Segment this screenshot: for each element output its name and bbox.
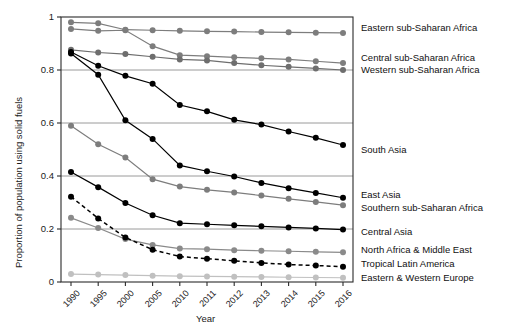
series-8	[68, 194, 346, 270]
data-point	[68, 26, 74, 32]
data-point	[204, 28, 210, 34]
data-point	[313, 275, 319, 281]
series-label-9: Eastern & Western Europe	[361, 272, 474, 283]
y-axis-tick-0.6: 0.6	[24, 117, 54, 128]
data-point	[286, 248, 292, 254]
data-point	[286, 64, 292, 70]
data-point	[177, 273, 183, 279]
data-point	[122, 51, 128, 57]
data-point	[95, 63, 101, 69]
data-point	[68, 169, 74, 175]
data-point	[258, 274, 264, 280]
data-point	[68, 215, 74, 221]
series-label-6: Central Asia	[361, 226, 412, 237]
y-axis-tick-1: 1	[24, 11, 54, 22]
data-point	[122, 234, 128, 240]
data-point	[313, 263, 319, 269]
data-point	[313, 135, 319, 141]
data-point	[122, 27, 128, 33]
data-point	[95, 20, 101, 26]
series-0	[68, 19, 346, 36]
data-point	[231, 222, 237, 228]
data-point	[122, 200, 128, 206]
data-point	[258, 260, 264, 266]
series-label-4: East Asia	[361, 189, 401, 200]
data-point	[313, 58, 319, 64]
data-point	[204, 256, 210, 262]
data-point	[313, 249, 319, 255]
data-point	[204, 168, 210, 174]
data-point	[150, 176, 156, 182]
data-point	[68, 51, 74, 57]
data-point	[258, 180, 264, 186]
data-point	[204, 273, 210, 279]
data-point	[177, 254, 183, 260]
data-point	[177, 28, 183, 34]
data-point	[204, 108, 210, 114]
data-point	[286, 224, 292, 230]
data-point	[231, 258, 237, 264]
data-point	[286, 128, 292, 134]
data-point	[258, 62, 264, 68]
data-point	[231, 54, 237, 60]
data-point	[95, 141, 101, 147]
data-point	[204, 187, 210, 193]
series-label-3: South Asia	[361, 144, 406, 155]
data-point	[150, 27, 156, 33]
data-point	[177, 246, 183, 252]
data-point	[231, 274, 237, 280]
data-point	[231, 247, 237, 253]
data-point	[231, 29, 237, 35]
data-point	[150, 212, 156, 218]
y-axis-tick-0.8: 0.8	[24, 64, 54, 75]
data-point	[150, 43, 156, 49]
data-point	[258, 55, 264, 61]
data-point	[95, 225, 101, 231]
data-point	[258, 29, 264, 35]
data-point	[313, 30, 319, 36]
series-3	[68, 49, 346, 148]
data-point	[177, 102, 183, 108]
data-point	[68, 123, 74, 129]
data-point	[313, 65, 319, 71]
y-axis-tick-0.2: 0.2	[24, 223, 54, 234]
series-label-7: North Africa & Middle East	[361, 244, 472, 255]
series-label-2: Western sub-Saharan Africa	[361, 64, 480, 75]
data-point	[286, 274, 292, 280]
data-point	[313, 225, 319, 231]
data-point	[150, 81, 156, 87]
data-point	[122, 154, 128, 160]
data-point	[258, 248, 264, 254]
series-7	[68, 215, 346, 255]
data-point	[177, 56, 183, 62]
data-point	[258, 122, 264, 128]
data-point	[258, 223, 264, 229]
series-9	[68, 271, 346, 281]
y-axis-tick-0.4: 0.4	[24, 170, 54, 181]
data-point	[122, 73, 128, 79]
data-point	[231, 60, 237, 66]
data-point	[286, 262, 292, 268]
data-point	[313, 190, 319, 196]
data-point	[95, 50, 101, 56]
data-point	[122, 117, 128, 123]
data-point	[231, 117, 237, 123]
data-point	[204, 221, 210, 227]
data-point	[177, 184, 183, 190]
data-point	[95, 184, 101, 190]
data-point	[204, 57, 210, 63]
series-4	[68, 51, 346, 201]
data-point	[204, 246, 210, 252]
data-point	[95, 72, 101, 78]
data-point	[150, 54, 156, 60]
data-point	[122, 272, 128, 278]
data-point	[258, 193, 264, 199]
data-point	[286, 29, 292, 35]
data-point	[68, 19, 74, 25]
y-axis-tick-0: 0	[24, 276, 54, 287]
y-axis-title: Proportion of population using solid fue…	[13, 97, 24, 268]
data-point	[313, 199, 319, 205]
data-point	[150, 273, 156, 279]
data-point	[68, 271, 74, 277]
data-point	[231, 189, 237, 195]
